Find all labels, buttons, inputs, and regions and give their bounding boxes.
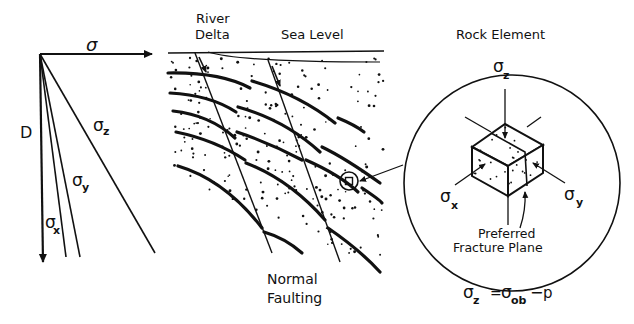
stipple-dot bbox=[373, 208, 375, 210]
stipple-dot bbox=[228, 127, 230, 129]
svg-text:x: x bbox=[451, 199, 458, 212]
stipple-dot bbox=[288, 160, 291, 163]
stipple-dot bbox=[188, 128, 190, 130]
stipple-dot bbox=[200, 86, 202, 88]
sigma-y-cube-label: σ y bbox=[564, 184, 583, 209]
stipple-dot bbox=[192, 138, 194, 140]
svg-text:z: z bbox=[473, 294, 479, 307]
stipple-dot bbox=[227, 175, 229, 177]
stipple-dot bbox=[517, 151, 519, 153]
stipple-dot bbox=[183, 137, 185, 139]
delta-label: Delta bbox=[195, 27, 230, 42]
stipple-dot bbox=[284, 192, 286, 194]
stipple-dot bbox=[240, 87, 243, 90]
stipple-dot bbox=[251, 75, 253, 77]
bed-segment bbox=[168, 73, 250, 88]
stipple-dot bbox=[359, 74, 361, 76]
stipple-dot bbox=[261, 197, 264, 200]
stipple-dot bbox=[174, 88, 177, 91]
rock-element-title: Rock Element bbox=[456, 27, 545, 42]
stipple-dot bbox=[183, 128, 185, 130]
bed-segment bbox=[264, 232, 302, 253]
cross-section: River Delta Sea Level bbox=[168, 11, 403, 306]
stipple-dot bbox=[522, 171, 524, 173]
stipple-dot bbox=[199, 132, 202, 135]
stipple-dot bbox=[516, 164, 518, 166]
stipple-dot bbox=[301, 69, 303, 71]
stipple-dot bbox=[381, 209, 383, 211]
stipple-dot bbox=[490, 162, 492, 164]
svg-text:y: y bbox=[576, 196, 583, 209]
stipple-dot bbox=[207, 71, 209, 73]
stipple-dot bbox=[364, 192, 366, 194]
stipple-dot bbox=[513, 157, 515, 159]
stipple-dot bbox=[327, 243, 329, 245]
stipple-dot bbox=[180, 150, 182, 152]
stipple-dot bbox=[289, 171, 291, 173]
stipple-dot bbox=[345, 191, 347, 193]
delta-surface-line bbox=[208, 52, 380, 62]
stipple-dot bbox=[265, 103, 267, 105]
stipple-dot bbox=[350, 248, 352, 250]
stipple-dot bbox=[277, 184, 279, 186]
normal-faulting-caption-1: Normal bbox=[267, 271, 318, 287]
sigma-axis-label: σ bbox=[86, 34, 98, 55]
stipple-dot bbox=[508, 183, 510, 185]
stipple-dot bbox=[329, 162, 331, 164]
stipple-dot bbox=[189, 99, 192, 102]
stipple-dot bbox=[310, 88, 313, 91]
stipple-dot bbox=[266, 205, 268, 207]
stipple-dot bbox=[325, 121, 327, 123]
stipple-dot bbox=[297, 85, 300, 88]
stipple-dot bbox=[329, 194, 331, 196]
stipple-dot bbox=[318, 97, 321, 100]
stipple-dot bbox=[365, 163, 367, 165]
stipple-dot bbox=[369, 200, 372, 203]
stipple-dot bbox=[348, 252, 350, 254]
stipple-dot bbox=[245, 116, 247, 118]
stipple-dot bbox=[237, 115, 239, 117]
stipple-dot bbox=[193, 123, 195, 125]
stipple-dot bbox=[368, 104, 371, 107]
fracture-plane-pointer bbox=[520, 192, 525, 228]
stipple-dot bbox=[510, 182, 512, 184]
stipple-dot bbox=[270, 104, 272, 106]
stipple-dot bbox=[245, 138, 248, 141]
stipple-dot bbox=[260, 182, 262, 184]
stipple-dot bbox=[374, 95, 376, 97]
stipple-dot bbox=[357, 91, 359, 93]
stipple-dot bbox=[278, 139, 281, 142]
stipple-dot bbox=[303, 107, 305, 109]
stipple-dot bbox=[188, 99, 190, 101]
stipple-dot bbox=[184, 141, 186, 143]
bed-segment bbox=[238, 107, 320, 152]
rock-element-inset: Rock Element σ z σ x σ y P bbox=[404, 27, 620, 291]
stipple-dot bbox=[344, 169, 346, 171]
stipple-dot bbox=[278, 72, 280, 74]
stipple-dot bbox=[206, 67, 209, 70]
stipple-dot bbox=[209, 189, 211, 191]
depth-axis-label: D bbox=[20, 123, 32, 142]
stipple-dot bbox=[257, 151, 260, 154]
preferred-label: Preferred bbox=[478, 226, 535, 241]
stipple-dot bbox=[313, 128, 316, 131]
stipple-dot bbox=[191, 147, 194, 150]
stipple-dot bbox=[480, 150, 482, 152]
bed-segment bbox=[170, 93, 236, 112]
svg-text:z: z bbox=[503, 69, 509, 82]
stipple-dot bbox=[354, 206, 357, 209]
stipple-dot bbox=[175, 69, 178, 72]
stipple-dot bbox=[306, 188, 308, 190]
stipple-dot bbox=[224, 180, 226, 182]
stipple-dot bbox=[491, 139, 493, 141]
stipple-dot bbox=[295, 145, 297, 147]
stipple-dot bbox=[204, 154, 206, 156]
stipple-dot bbox=[300, 124, 302, 126]
sea-level-line bbox=[168, 51, 384, 53]
stipple-dot bbox=[343, 217, 345, 219]
stipple-dot bbox=[228, 155, 230, 157]
stipple-dot bbox=[189, 57, 191, 59]
stipple-dot bbox=[189, 84, 191, 86]
stipple-dot bbox=[343, 207, 346, 210]
stipple-dot bbox=[253, 64, 255, 66]
